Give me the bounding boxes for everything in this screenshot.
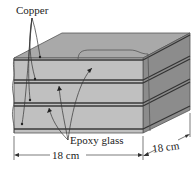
copper-label: Copper [16, 4, 49, 16]
pcb-layer-diagram: Copper Epoxy glass 18 cm 18 cm [0, 0, 194, 169]
front-face [14, 58, 143, 133]
width-label: 18 cm [52, 149, 80, 161]
depth-label: 18 cm [151, 139, 180, 155]
epoxy-label: Epoxy glass [70, 134, 123, 146]
